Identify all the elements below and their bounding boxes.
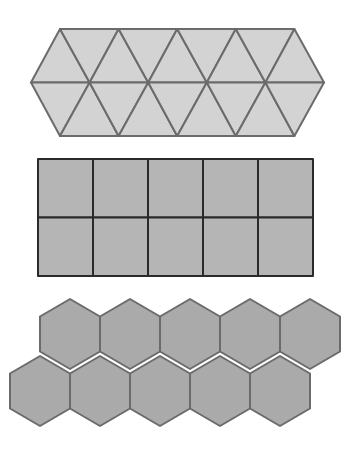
square-tile [258, 159, 313, 218]
square-tile [93, 159, 148, 218]
triangle-tiling [31, 29, 324, 136]
square-tile [203, 218, 258, 277]
square-tile [148, 159, 203, 218]
square-tile [203, 159, 258, 218]
square-tile [148, 218, 203, 277]
square-tile [38, 218, 93, 277]
square-tile [258, 218, 313, 277]
square-tile [38, 159, 93, 218]
square-tiling [38, 159, 313, 276]
square-tile [93, 218, 148, 277]
tessellation-diagram [0, 0, 359, 450]
